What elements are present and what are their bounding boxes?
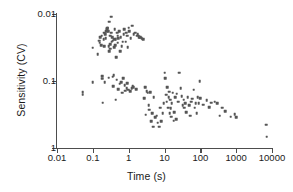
scatter-point (166, 86, 169, 89)
x-tick-label: 0.1 (86, 153, 99, 163)
scatter-point (92, 47, 95, 50)
scatter-point (117, 88, 120, 91)
scatter-point (130, 37, 133, 40)
scatter-point (266, 135, 269, 138)
scatter-point (115, 79, 118, 82)
scatter-point (147, 104, 150, 107)
scatter-point (177, 101, 180, 104)
scatter-point (109, 47, 112, 50)
scatter-point (135, 88, 138, 91)
scatter-point (175, 92, 178, 95)
scatter-point (104, 33, 107, 36)
scatter-point (131, 25, 134, 28)
scatter-point (107, 76, 110, 79)
scatter-point (152, 125, 155, 128)
scatter-point (205, 99, 208, 102)
scatter-point (189, 114, 192, 117)
scatter-point (100, 34, 103, 37)
scatter-point (108, 20, 111, 23)
scatter-point (101, 78, 104, 81)
scatter-point (158, 125, 161, 128)
scatter-point (173, 111, 176, 114)
scatter-point (92, 81, 95, 84)
scatter-point (155, 114, 158, 117)
scatter-point (127, 46, 130, 49)
scatter-point (126, 82, 129, 85)
scatter-point (119, 36, 122, 39)
scatter-point (170, 107, 173, 110)
scatter-point (117, 42, 120, 45)
x-tick-label: 10 (159, 153, 170, 163)
scatter-point (129, 90, 132, 93)
scatter-point (112, 74, 115, 77)
scatter-point (193, 106, 196, 109)
scatter-point (196, 112, 199, 115)
scatter-point (103, 45, 106, 48)
scatter-point (235, 116, 238, 119)
scatter-point (199, 97, 202, 100)
scatter-point (124, 41, 127, 44)
x-axis-title: Time (s) (0, 170, 293, 182)
x-tick-label: 1 (126, 153, 131, 163)
scatter-point (110, 31, 113, 34)
scatter-point (191, 98, 194, 101)
scatter-point (188, 104, 191, 107)
scatter-point (180, 95, 183, 98)
scatter-point (120, 45, 123, 48)
scatter-point (114, 98, 117, 101)
scatter-point (168, 91, 171, 94)
scatter-point (150, 120, 153, 123)
scatter-point (184, 102, 187, 105)
scatter-point (142, 38, 145, 41)
scatter-point (171, 102, 174, 105)
x-tick-label: 0.01 (48, 153, 67, 163)
scatter-point (108, 50, 111, 53)
scatter-point (219, 114, 222, 117)
scatter-point (103, 81, 106, 84)
scatter-point (171, 92, 174, 95)
scatter-point (151, 112, 154, 115)
scatter-point (198, 80, 201, 83)
scatter-point (190, 101, 193, 104)
scatter-point (101, 75, 104, 78)
y-tick-label: 0.01 (38, 9, 57, 19)
scatter-point (107, 26, 110, 29)
scatter-point (175, 118, 178, 121)
scatter-point (168, 112, 171, 115)
scatter-point (224, 110, 227, 113)
scatter-point (197, 102, 200, 105)
figure-container: 0.010.11 0.010.1110100100010000 Time (s)… (0, 0, 293, 192)
y-axis-line (56, 13, 57, 149)
scatter-point (160, 120, 163, 123)
scatter-point (81, 93, 84, 96)
scatter-point (152, 96, 155, 99)
scatter-point (179, 87, 182, 90)
scatter-point (157, 121, 160, 124)
plot-area (57, 14, 272, 148)
scatter-point (208, 106, 211, 109)
scatter-markers-layer (57, 14, 272, 148)
scatter-point (185, 111, 188, 114)
scatter-point (127, 26, 130, 29)
x-tick-label: 10000 (259, 153, 285, 163)
scatter-point (169, 98, 172, 101)
scatter-point (144, 114, 147, 117)
y-tick-label: 0.1 (43, 76, 56, 86)
scatter-point (233, 113, 236, 116)
scatter-point (229, 115, 232, 118)
scatter-point (192, 88, 195, 91)
scatter-point (183, 106, 186, 109)
scatter-point (144, 86, 147, 89)
x-tick-label: 1000 (226, 153, 247, 163)
scatter-point (182, 98, 185, 101)
x-tick-label: 100 (192, 153, 208, 163)
scatter-point (170, 115, 173, 118)
scatter-point (216, 102, 219, 105)
scatter-point (118, 30, 121, 33)
scatter-point (120, 81, 123, 84)
scatter-point (122, 77, 125, 80)
scatter-point (119, 50, 122, 53)
scatter-point (123, 28, 126, 31)
scatter-point (105, 37, 108, 40)
scatter-point (186, 96, 189, 99)
